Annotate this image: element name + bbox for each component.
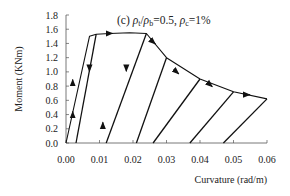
x-tick-label: 0.01 (91, 154, 109, 165)
plot-series (66, 33, 267, 143)
arrow-down-right-icon (151, 40, 156, 44)
unload-reload-line (106, 34, 146, 144)
y-axis-ticks: 0.00.20.40.60.81.01.21.41.61.8 (46, 10, 70, 149)
direction-arrows (73, 33, 250, 128)
y-axis-label: Moment (KNm) (13, 46, 25, 111)
envelope-curve (66, 33, 267, 143)
y-tick-label: 1.0 (46, 66, 59, 77)
x-tick-label: 0.06 (258, 154, 276, 165)
y-tick-label: 0.2 (46, 123, 59, 134)
x-axis-label: Curvature (rad/m) (195, 174, 267, 186)
y-tick-label: 1.6 (46, 24, 59, 35)
y-tick-label: 0.8 (46, 81, 59, 92)
x-axis-ticks: 0.000.010.020.030.040.050.06 (57, 140, 276, 165)
x-tick-label: 0.00 (57, 154, 75, 165)
unload-reload-line (223, 99, 267, 143)
x-tick-label: 0.05 (225, 154, 243, 165)
panel-title-text: (c) ρt/ρb=0.5, ρc=1% (117, 14, 211, 28)
unload-reload-line (190, 92, 234, 143)
x-tick-label: 0.02 (124, 154, 142, 165)
chart-title: (c) ρt/ρb=0.5, ρc=1% (117, 14, 211, 28)
y-tick-label: 1.2 (46, 52, 59, 63)
x-tick-label: 0.04 (191, 154, 209, 165)
y-tick-label: 0.0 (46, 138, 59, 149)
y-tick-label: 1.8 (46, 10, 59, 21)
x-tick-label: 0.03 (158, 154, 176, 165)
arrow-down-right-icon (174, 70, 179, 74)
y-tick-label: 1.4 (46, 38, 59, 49)
y-tick-label: 0.6 (46, 95, 59, 106)
y-tick-label: 0.4 (46, 109, 59, 120)
unload-reload-line (153, 79, 200, 143)
moment-curvature-chart: (c) ρt/ρb=0.5, ρc=1% 0.00.20.40.60.81.01… (0, 0, 290, 196)
